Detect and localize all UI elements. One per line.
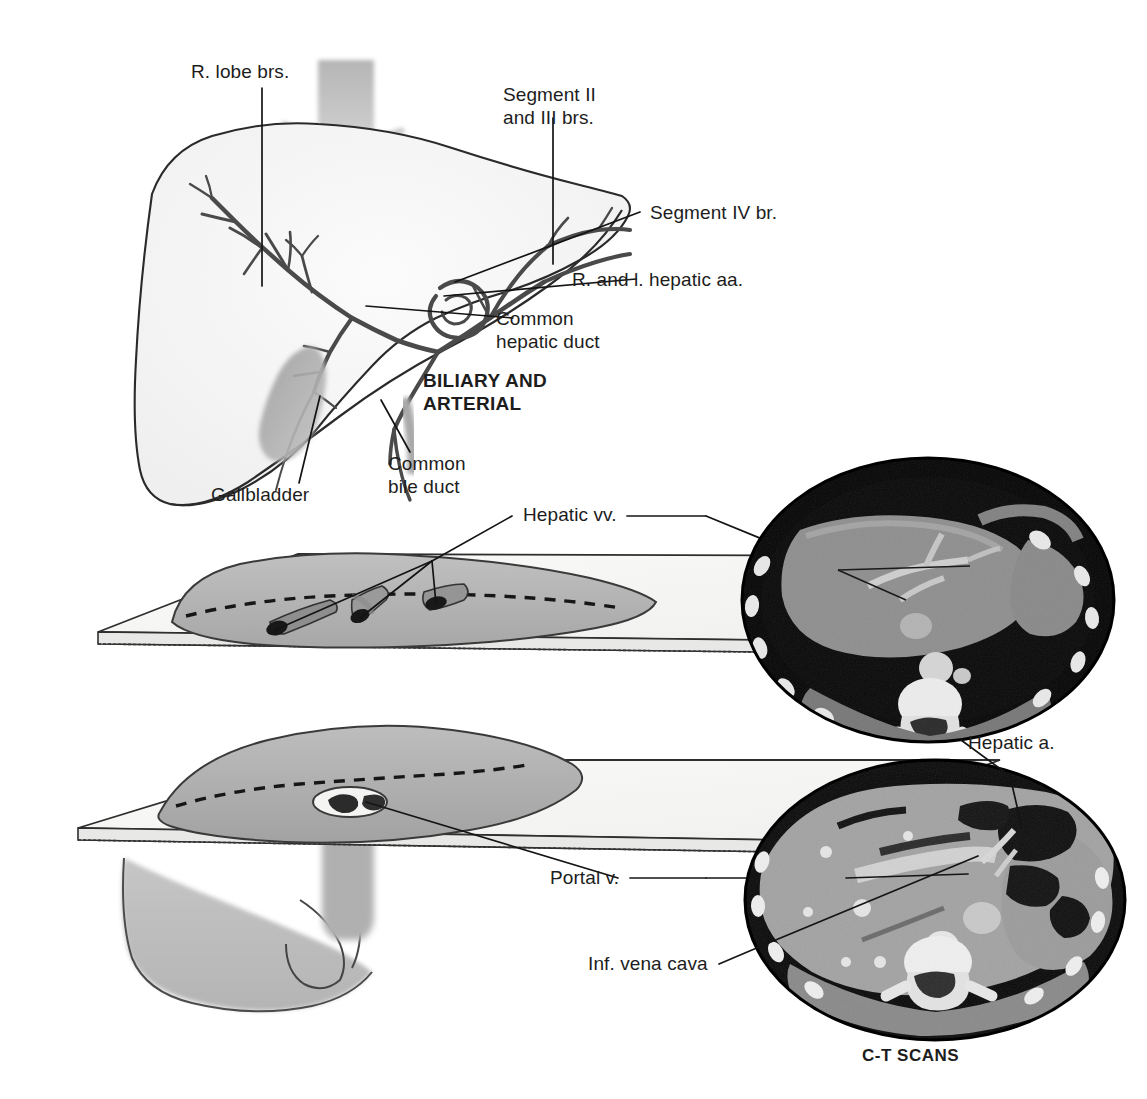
- label-segment-iv-br: Segment IV br.: [650, 201, 777, 224]
- label-segment-ii-iii-line1: Segment II: [503, 83, 596, 106]
- caption-biliary-and-arterial-line1: BILIARY AND: [423, 369, 547, 392]
- label-segment-ii-iii-line2: and III brs.: [503, 106, 594, 129]
- label-hepatic-vv: Hepatic vv.: [523, 503, 617, 526]
- ct-scan-upper: [742, 458, 1114, 762]
- label-common-bile-duct-line2: bile duct: [388, 475, 460, 498]
- label-r-and-l-hepatic-aa: R. and l. hepatic aa.: [572, 268, 743, 291]
- caption-biliary-and-arterial-line2: ARTERIAL: [423, 392, 521, 415]
- label-inf-vena-cava: Inf. vena cava: [588, 952, 708, 975]
- illustration-canvas: [0, 0, 1147, 1099]
- label-common-bile-duct-line1: Common: [388, 452, 466, 475]
- lower-liver-body: [122, 838, 374, 1011]
- label-r-lobe-brs: R. lobe brs.: [191, 60, 289, 83]
- caption-ct-scans: C-T SCANS: [862, 1044, 959, 1067]
- label-common-hepatic-duct-line2: hepatic duct: [496, 330, 600, 353]
- label-common-hepatic-duct-line1: Common: [496, 307, 574, 330]
- label-portal-v: Portal v.: [550, 866, 619, 889]
- figure-root: R. lobe brs. Segment II and III brs. Seg…: [0, 0, 1147, 1099]
- label-gallbladder: Gallbladder: [211, 483, 309, 506]
- label-hepatic-a: Hepatic a.: [968, 731, 1055, 754]
